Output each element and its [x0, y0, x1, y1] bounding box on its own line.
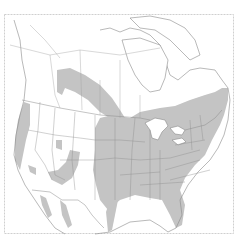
map-svg: [0, 0, 235, 240]
range-map: [0, 0, 235, 240]
